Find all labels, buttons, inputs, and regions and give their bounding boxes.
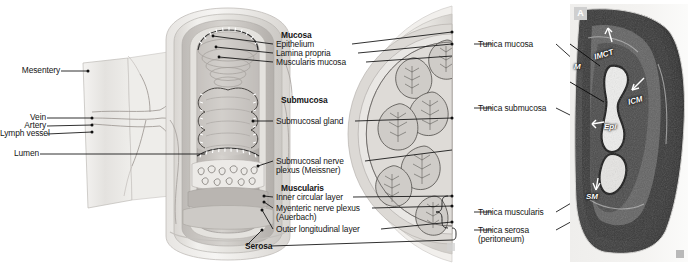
micrograph-label-sm: SM: [586, 192, 598, 201]
label-outer-longitudinal-layer: Outer longitudinal layer: [276, 225, 360, 234]
cutaway-illustration: [83, 8, 292, 260]
label-submucosal-nerve-plexus-line2: plexus (Meissner): [276, 166, 340, 175]
submucosa-band: [192, 160, 264, 191]
label-tunica-muscularis: Tunica muscularis: [478, 208, 543, 217]
micrograph-corner-badge: [676, 250, 684, 258]
micrograph-label-m: M: [574, 62, 581, 71]
label-mesentery: Mesentery: [0, 66, 60, 75]
label-submucosal-gland: Submucosal gland: [276, 117, 343, 126]
micrograph-panel-badge: A: [574, 7, 587, 20]
heading-serosa: Serosa: [245, 242, 272, 251]
label-myenteric-nerve-plexus-line2: (Auerbach): [276, 213, 316, 222]
label-inner-circular-layer: Inner circular layer: [276, 193, 343, 202]
label-tunica-submucosa: Tunica submucosa: [478, 104, 546, 113]
label-tunica-mucosa: Tunica mucosa: [478, 40, 533, 49]
label-tunica-serosa-line2: (peritoneum): [478, 235, 524, 244]
label-lymph-vessel: Lymph vessel: [0, 129, 46, 138]
serosa-bracket: [452, 228, 456, 240]
heading-submucosa: Submucosa: [281, 96, 328, 105]
histology-micrograph: IMCT M ICM Epi SM A: [570, 4, 688, 262]
micrograph-label-epi: Epi: [604, 122, 616, 131]
outer-longitudinal-band: [183, 206, 273, 230]
anatomical-figure: Mesentery Vein Artery Lymph vessel Lumen…: [0, 0, 692, 270]
intestinal-tube: [166, 8, 290, 260]
label-muscularis-mucosa: Muscularis mucosa: [276, 58, 346, 67]
label-lumen: Lumen: [0, 149, 39, 158]
cross-section-panel-badge: [447, 243, 455, 251]
